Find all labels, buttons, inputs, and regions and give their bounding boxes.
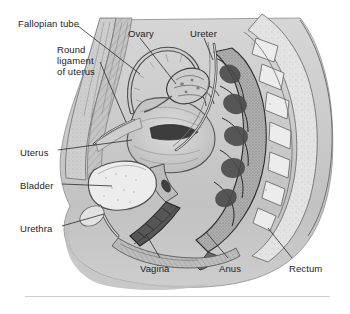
label-ovary: Ovary	[128, 28, 154, 39]
figure-page: Fallopian tube Ovary Ureter Round ligame…	[0, 0, 350, 314]
label-round-ligament-of-uterus: Round ligament of uterus	[57, 44, 95, 77]
label-fallopian-tube: Fallopian tube	[18, 18, 79, 29]
label-vagina: Vagina	[140, 263, 169, 274]
label-anus: Anus	[219, 263, 241, 274]
label-ureter: Ureter	[190, 28, 217, 39]
label-rectum: Rectum	[289, 263, 322, 274]
label-uterus: Uterus	[20, 147, 49, 158]
label-urethra: Urethra	[20, 223, 52, 234]
label-bladder: Bladder	[20, 180, 53, 191]
footer-rule	[25, 296, 330, 297]
